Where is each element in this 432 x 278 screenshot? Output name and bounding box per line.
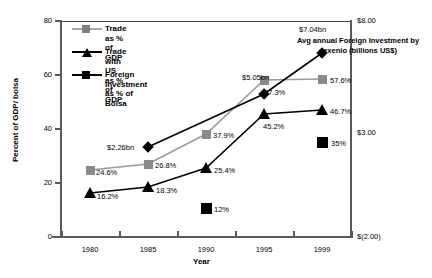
data-label-fdi-billions-1985: $2.26bn [107, 143, 134, 152]
data-label-trade-us-1990: 25.4% [214, 166, 235, 175]
x-tick-label-1980: 1980 [70, 245, 110, 254]
data-point-fdi-bolsa-1990 [201, 203, 212, 214]
x-tick-label-1990: 1990 [186, 245, 226, 254]
data-label-trade-gdp-1985: 26.8% [155, 161, 176, 170]
data-point-trade-us-1980 [84, 187, 96, 198]
y2-tick-label-8: $8.00 [357, 16, 376, 25]
x-tick-3 [235, 231, 237, 238]
data-label-trade-us-1995: 45.2% [263, 122, 284, 131]
x-tick-1 [119, 231, 121, 238]
y-tick-label-60: 60 [30, 70, 52, 79]
y2-tick-label-3: $3.00 [357, 128, 376, 137]
y-tick-40 [55, 128, 62, 130]
y-tick-label-80: 80 [30, 16, 52, 25]
x-axis-title: Year [193, 258, 210, 266]
y2-tick-label-neg2: $(2.00) [357, 232, 381, 241]
x-tick-label-1999: 1999 [302, 245, 342, 254]
y-tick-60 [55, 74, 62, 76]
y-tick-20 [55, 182, 62, 184]
legend-item-fdi-bolsa[interactable]: Foreign Investment as % of Bolsa [72, 70, 147, 108]
data-label-trade-us-1980: 16.2% [97, 192, 118, 201]
x-tick-4 [293, 231, 295, 238]
data-label-fdi-billions-1995: $5.05bn [242, 73, 269, 82]
chart-container: Percent of GDP/ bolsa 80 60 40 20 0 $8.0… [0, 0, 432, 278]
x-tick-label-1995: 1995 [244, 245, 284, 254]
data-label-trade-gdp-1999: 57.6% [330, 76, 351, 85]
x-axis-line [52, 236, 352, 238]
secondary-axis-note: Avg annual Foreign Investment by sexenio… [287, 36, 429, 56]
x-tick-label-1985: 1985 [128, 245, 168, 254]
legend-marker-trade-us [72, 47, 102, 56]
y-tick-label-40: 40 [30, 124, 52, 133]
legend-marker-fdi-bolsa [72, 70, 102, 79]
x-tick-0 [61, 231, 63, 238]
x-tick-5 [351, 231, 353, 238]
y-tick-80 [55, 20, 62, 22]
data-point-trade-us-1995 [258, 108, 270, 119]
y-tick-label-0: 0 [30, 232, 52, 241]
data-label-trade-us-1999: 46.7% [330, 107, 351, 116]
data-label-trade-gdp-1980: 24.6% [96, 168, 117, 177]
data-point-trade-us-1985 [142, 181, 154, 192]
data-point-trade-gdp-1985 [144, 160, 153, 169]
data-point-trade-gdp-1980 [86, 166, 95, 175]
data-label-trade-gdp-1990: 37.9% [213, 131, 234, 140]
data-point-trade-us-1999 [316, 104, 328, 115]
y-tick-label-20: 20 [30, 178, 52, 187]
x-tick-2 [177, 231, 179, 238]
data-point-trade-us-1990 [200, 162, 212, 173]
data-point-fdi-bolsa-1999 [317, 137, 328, 148]
y-axis-title: Percent of GDP/ bolsa [12, 60, 20, 180]
data-point-trade-gdp-1999 [318, 75, 327, 84]
data-label-trade-us-1985: 18.3% [156, 186, 177, 195]
data-label-fdi-bolsa-1990: 12% [214, 205, 229, 214]
data-label-fdi-billions-1999: $7.04bn [299, 25, 326, 34]
legend-label-fdi-bolsa: Foreign Investment as % of Bolsa [105, 70, 147, 108]
legend-marker-trade-gdp [72, 24, 102, 33]
data-point-trade-gdp-1990 [202, 130, 211, 139]
data-label-fdi-bolsa-1999: 35% [331, 139, 346, 148]
